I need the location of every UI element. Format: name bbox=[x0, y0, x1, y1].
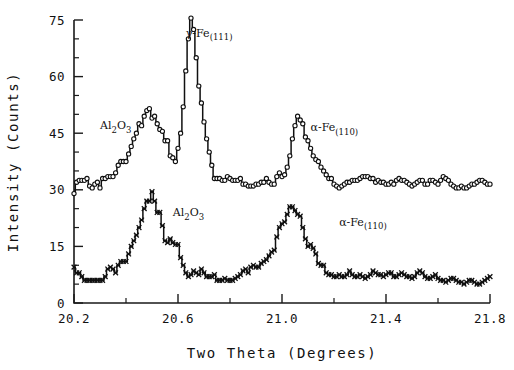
annotation-alpha-fe-110-upper: α-Fe(110) bbox=[311, 121, 359, 137]
annotation-text: γ-Fe bbox=[186, 27, 210, 40]
data-point bbox=[329, 176, 333, 180]
y-tick-label: 45 bbox=[49, 126, 65, 141]
data-point bbox=[155, 122, 159, 126]
data-point bbox=[306, 139, 310, 143]
xrd-diffraction-chart: 20.220.621.021.421.8 01530456075 γ-Fe(11… bbox=[0, 0, 514, 370]
y-axis-title: Intensity (Counts) bbox=[5, 72, 21, 253]
data-point bbox=[316, 159, 320, 163]
annotation-subscript: (111) bbox=[210, 32, 233, 42]
annotation-text: α-Fe bbox=[339, 216, 364, 229]
data-point bbox=[95, 180, 99, 184]
data-point bbox=[147, 107, 151, 111]
data-point bbox=[85, 176, 89, 180]
data-point bbox=[285, 165, 289, 169]
data-point bbox=[166, 139, 170, 143]
annotation-gamma-fe-111-upper: γ-Fe(111) bbox=[186, 27, 233, 43]
x-tick-label: 20.6 bbox=[162, 311, 194, 326]
x-tick-label: 21.0 bbox=[266, 311, 298, 326]
annotation-subscript: (110) bbox=[335, 127, 358, 137]
data-point bbox=[142, 114, 146, 118]
trace-line-lower-trace bbox=[74, 192, 490, 284]
data-point bbox=[202, 120, 206, 124]
annotation-al2o3-lower: Al2O3 bbox=[172, 206, 204, 222]
data-point bbox=[207, 150, 211, 154]
annotation-subscript-2: 3 bbox=[126, 125, 131, 135]
y-tick-label: 0 bbox=[57, 296, 65, 311]
data-point bbox=[309, 146, 313, 150]
data-point bbox=[210, 163, 214, 167]
data-point bbox=[194, 56, 198, 60]
annotation-subscript-2: 3 bbox=[199, 212, 204, 222]
data-point bbox=[72, 191, 76, 195]
data-point bbox=[293, 124, 297, 128]
y-tick-label: 15 bbox=[49, 239, 65, 254]
annotation-subscript: (110) bbox=[364, 221, 387, 231]
series-lower-trace bbox=[72, 189, 493, 286]
axis-lines bbox=[74, 20, 490, 303]
annotation-al2o3-upper: Al2O3 bbox=[99, 119, 131, 135]
y-tick-label: 30 bbox=[49, 182, 65, 197]
annotation-text-2: O bbox=[117, 119, 126, 132]
data-point bbox=[160, 129, 164, 133]
data-point bbox=[283, 173, 287, 177]
y-tick-label: 75 bbox=[49, 13, 65, 28]
data-point bbox=[189, 16, 193, 20]
data-point bbox=[127, 152, 131, 156]
data-point bbox=[488, 182, 492, 186]
data-point bbox=[301, 122, 305, 126]
data-point bbox=[114, 171, 118, 175]
data-point bbox=[140, 124, 144, 128]
x-tick-label: 20.2 bbox=[58, 311, 90, 326]
x-axis-title: Two Theta (Degrees) bbox=[187, 345, 378, 361]
data-series bbox=[72, 16, 493, 287]
data-point bbox=[272, 182, 276, 186]
annotation-text-2: O bbox=[190, 206, 199, 219]
y-axis-tick-labels: 01530456075 bbox=[49, 13, 65, 311]
data-point bbox=[134, 131, 138, 135]
annotation-text: Al bbox=[172, 206, 185, 219]
data-point bbox=[129, 144, 133, 148]
y-tick-label: 60 bbox=[49, 69, 65, 84]
data-point bbox=[176, 146, 180, 150]
x-tick-label: 21.8 bbox=[474, 311, 506, 326]
data-point bbox=[98, 186, 102, 190]
data-point bbox=[179, 131, 183, 135]
data-point bbox=[132, 137, 136, 141]
data-point bbox=[205, 137, 209, 141]
x-axis-ticks bbox=[74, 294, 490, 303]
data-point bbox=[124, 159, 128, 163]
data-point bbox=[199, 101, 203, 105]
data-point bbox=[184, 69, 188, 73]
data-point bbox=[173, 159, 177, 163]
annotation-text: Al bbox=[99, 119, 112, 132]
data-point bbox=[197, 84, 201, 88]
data-point bbox=[181, 105, 185, 109]
data-point bbox=[153, 114, 157, 118]
x-axis-tick-labels: 20.220.621.021.421.8 bbox=[58, 311, 506, 326]
y-axis-ticks bbox=[74, 20, 83, 303]
trace-line-upper-trace bbox=[74, 18, 490, 193]
annotation-alpha-fe-110-lower: α-Fe(110) bbox=[339, 216, 387, 232]
chart-figure: 20.220.621.021.421.8 01530456075 γ-Fe(11… bbox=[0, 0, 514, 370]
data-point bbox=[288, 154, 292, 158]
peak-annotations: γ-Fe(111)Al2O3α-Fe(110)Al2O3α-Fe(110) bbox=[99, 27, 387, 231]
series-upper-trace bbox=[72, 16, 492, 196]
x-tick-label: 21.4 bbox=[370, 311, 402, 326]
data-point bbox=[238, 176, 242, 180]
data-point bbox=[290, 137, 294, 141]
markers-upper-trace bbox=[72, 16, 492, 196]
annotation-text: α-Fe bbox=[311, 121, 336, 134]
